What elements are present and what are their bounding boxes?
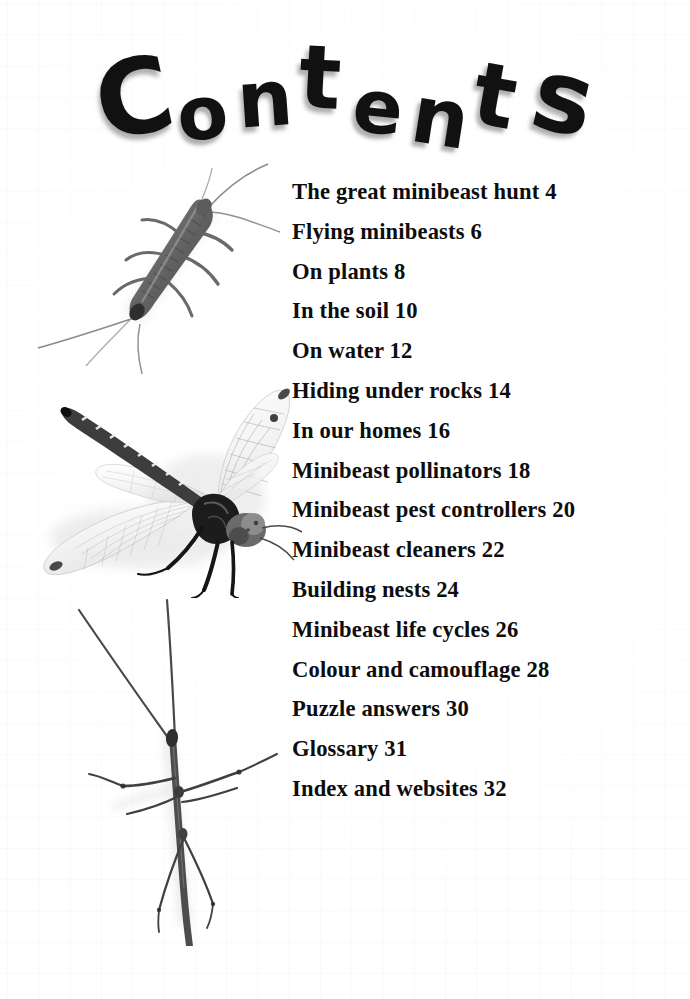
contents-entry[interactable]: Minibeast life cycles 26 <box>292 614 684 654</box>
contents-entry[interactable]: Puzzle answers 30 <box>292 693 684 733</box>
contents-entry[interactable]: Minibeast pest controllers 20 <box>292 494 684 534</box>
contents-entry[interactable]: Colour and camouflage 28 <box>292 654 684 694</box>
contents-entry[interactable]: Building nests 24 <box>292 574 684 614</box>
silverfish-photo <box>30 160 290 375</box>
contents-entry[interactable]: Glossary 31 <box>292 733 684 773</box>
contents-entry[interactable]: Index and websites 32 <box>292 773 684 813</box>
contents-entry[interactable]: On plants 8 <box>292 256 684 296</box>
contents-entry[interactable]: In the soil 10 <box>292 295 684 335</box>
contents-page: Contents <box>0 0 690 999</box>
stick-insect-illustration <box>55 596 300 946</box>
contents-entry[interactable]: Minibeast pollinators 18 <box>292 455 684 495</box>
contents-list: The great minibeast hunt 4Flying minibea… <box>292 176 684 813</box>
contents-entry[interactable]: On water 12 <box>292 335 684 375</box>
silverfish-illustration <box>30 160 290 375</box>
contents-entry[interactable]: In our homes 16 <box>292 415 684 455</box>
contents-entry[interactable]: Minibeast cleaners 22 <box>292 534 684 574</box>
stick-insect-photo <box>55 596 300 946</box>
contents-entry[interactable]: Hiding under rocks 14 <box>292 375 684 415</box>
contents-entry[interactable]: The great minibeast hunt 4 <box>292 176 684 216</box>
contents-entry[interactable]: Flying minibeasts 6 <box>292 216 684 256</box>
dragonfly-illustration <box>22 378 302 598</box>
dragonfly-photo <box>22 378 302 598</box>
